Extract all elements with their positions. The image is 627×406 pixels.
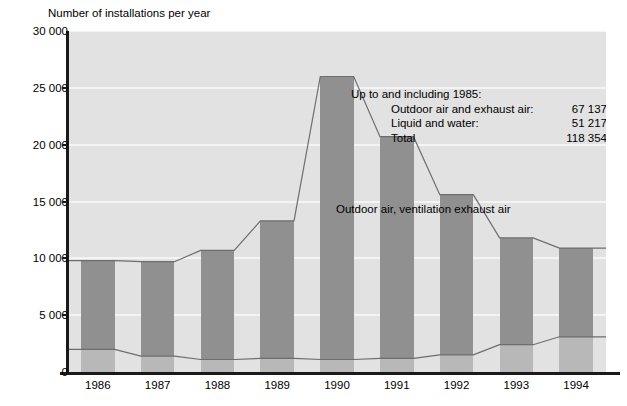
y-tick-mark — [62, 201, 67, 203]
annotation-row-label: Outdoor air and exhaust air: — [391, 102, 551, 117]
liquid-water-line — [68, 337, 606, 360]
annotation-summary-1985: Up to and including 1985: Outdoor air an… — [351, 87, 606, 145]
y-tick-label: 10 000 — [6, 252, 68, 264]
y-tick-label: 15 000 — [6, 196, 68, 208]
series-outline-lines — [68, 31, 606, 372]
y-tick-label: 0 — [6, 366, 68, 378]
x-tick-label-1994: 1994 — [546, 379, 606, 392]
annotation-row-label: Total — [391, 131, 551, 146]
chart-container: Number of installations per year Outdoor… — [0, 0, 627, 406]
y-tick-label: 25 000 — [6, 82, 68, 94]
y-tick-mark — [62, 144, 67, 146]
annotation-row-value: 51 217 — [551, 116, 606, 131]
x-tick-label-1988: 1988 — [187, 379, 247, 392]
y-tick-label: 30 000 — [6, 25, 68, 37]
annotation-row: Total118 354 — [391, 131, 606, 146]
x-tick-label-1991: 1991 — [367, 379, 427, 392]
y-tick-mark — [62, 87, 67, 89]
y-tick-mark — [62, 257, 67, 259]
series-label-outdoor-air: Outdoor air, ventilation exhaust air — [336, 203, 511, 216]
x-tick-label-1989: 1989 — [247, 379, 307, 392]
plot-area: Outdoor air, ventilation exhaust air Liq… — [68, 31, 606, 372]
annotation-rows: Outdoor air and exhaust air:67 137Liquid… — [391, 102, 606, 146]
y-axis-title: Number of installations per year — [48, 6, 210, 20]
y-tick-label: 5 000 — [6, 309, 68, 321]
annotation-title: Up to and including 1985: — [351, 87, 606, 102]
x-axis-line — [60, 372, 620, 375]
annotation-row-value: 118 354 — [551, 131, 606, 146]
annotation-row-label: Liquid and water: — [391, 116, 551, 131]
y-axis-ticks: 05 00010 00015 00020 00025 00030 000 — [0, 0, 68, 406]
x-tick-label-1992: 1992 — [427, 379, 487, 392]
annotation-row-value: 67 137 — [551, 102, 606, 117]
annotation-row: Outdoor air and exhaust air:67 137 — [391, 102, 606, 117]
x-tick-label-1987: 1987 — [128, 379, 188, 392]
annotation-row: Liquid and water:51 217 — [391, 116, 606, 131]
x-tick-label-1986: 1986 — [68, 379, 128, 392]
x-tick-label-1993: 1993 — [486, 379, 546, 392]
y-tick-label: 20 000 — [6, 139, 68, 151]
y-tick-mark — [62, 314, 67, 316]
x-tick-label-1990: 1990 — [307, 379, 367, 392]
